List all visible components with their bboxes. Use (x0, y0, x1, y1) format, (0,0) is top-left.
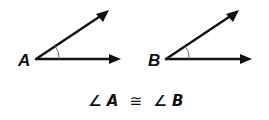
angle-a-arc-mark (55, 46, 59, 59)
angle-symbol-right: ∠ (153, 92, 166, 110)
caption-right-angle: B (172, 92, 183, 110)
angle-b-arc-mark (185, 46, 189, 59)
angle-a-vertex-label: A (17, 51, 30, 70)
angle-b-upper-arrowhead (226, 10, 239, 22)
angle-b-upper-ray (166, 15, 232, 59)
congruent-angles-diagram: A B ∠ A ≅ ∠ B (0, 0, 269, 120)
angle-a-lower-arrowhead (109, 54, 121, 64)
angle-a: A (17, 10, 121, 70)
angle-a-upper-ray (36, 15, 102, 59)
caption-left-angle: A (106, 92, 119, 110)
angle-b-lower-arrowhead (240, 54, 252, 64)
congruence-caption: ∠ A ≅ ∠ B (88, 92, 183, 110)
angle-a-upper-arrowhead (96, 10, 109, 22)
angle-b: B (148, 10, 252, 70)
congruent-symbol: ≅ (130, 92, 143, 110)
angle-b-vertex-label: B (148, 51, 160, 70)
angle-symbol-left: ∠ (88, 92, 101, 110)
